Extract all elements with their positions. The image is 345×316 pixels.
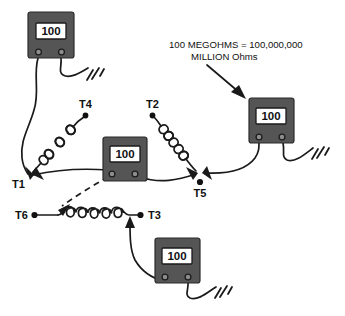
meter-top-left-terminal-b[interactable] (59, 49, 65, 55)
coil-t6-t3 (36, 207, 139, 218)
ground-bottom-icon (215, 286, 232, 298)
meter-right[interactable]: 100 (249, 98, 294, 143)
meter-top-left[interactable]: 100 (28, 12, 74, 58)
wire-topleft-meter-to-t1 (22, 58, 38, 174)
terminal-dot-t4 (83, 113, 89, 119)
meter-right-reading: 100 (261, 110, 280, 122)
meter-bottom[interactable]: 100 (155, 238, 200, 283)
dashed-link-center-meter-to-t6 (62, 177, 108, 206)
annotation-line-2: MILLION Ohms (191, 51, 258, 62)
terminal-dot-t2 (150, 113, 156, 119)
terminal-label-t2: T2 (146, 98, 159, 110)
meter-bottom-terminal-a[interactable] (162, 274, 168, 280)
wire-t5-to-right-meter (206, 143, 259, 173)
terminal-dot-t3 (137, 212, 143, 218)
wire-center-meter-to-t5 (140, 174, 196, 181)
meter-right-terminal-a[interactable] (256, 134, 262, 140)
ground-right-icon (312, 147, 329, 159)
terminal-label-t1: T1 (12, 178, 25, 190)
annotation-line-1: 100 MEGOHMS = 100,000,000 (169, 39, 303, 50)
terminal-label-t6: T6 (15, 209, 28, 221)
meter-right-terminal-b[interactable] (279, 134, 285, 140)
meter-center-reading: 100 (115, 148, 134, 160)
wire-bottom-meter-to-ground (187, 281, 216, 299)
coil-t1-t4 (33, 117, 84, 172)
arrowhead-into-coil-t6-t3 (125, 216, 135, 228)
meter-bottom-reading: 100 (167, 250, 186, 262)
terminal-label-t4: T4 (79, 98, 93, 110)
meter-center-terminal-a[interactable] (109, 171, 115, 177)
meter-center[interactable]: 100 (103, 137, 147, 181)
meter-center-terminal-b[interactable] (132, 171, 138, 177)
wire-right-meter-to-ground (283, 143, 313, 161)
circuit-diagram: 100 100 100 100 T1 T2 T3 T4 T5 T6 100 ME… (0, 0, 345, 316)
meter-bottom-terminal-b[interactable] (185, 274, 191, 280)
wire-topleft-meter-to-ground (60, 58, 88, 76)
terminal-label-t5: T5 (194, 187, 207, 199)
meter-top-left-terminal-a[interactable] (36, 49, 42, 55)
arrowhead-into-t5-left (186, 167, 198, 180)
wire-t1-to-center-meter (33, 169, 108, 175)
meter-top-left-reading: 100 (41, 25, 60, 37)
ground-top-left-icon (87, 68, 104, 80)
circuit-canvas: 100 100 100 100 T1 T2 T3 T4 T5 T6 100 ME… (0, 0, 345, 316)
coil-t2-t5 (154, 117, 196, 171)
terminal-dot-t6 (31, 212, 37, 218)
terminal-dot-t5 (197, 179, 203, 185)
terminal-label-t3: T3 (148, 209, 161, 221)
